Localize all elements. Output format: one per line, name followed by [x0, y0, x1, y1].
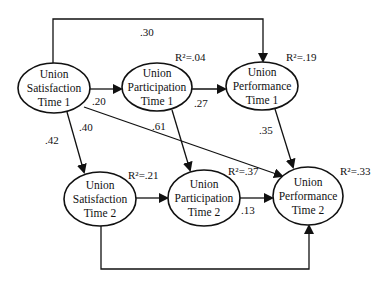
- node-label-line: Union: [190, 178, 219, 190]
- node-label-line: Union: [40, 68, 69, 80]
- node-label-line: Time 2: [188, 206, 221, 218]
- node-label-line: Performance: [233, 80, 292, 92]
- node-label-line: Participation: [175, 192, 234, 205]
- node-label-line: Union: [294, 176, 323, 188]
- r-squared-part1: R²=.04: [175, 51, 206, 63]
- node-label-line: Time 1: [38, 96, 71, 108]
- path-coefficient-sat1-part1: .20: [92, 95, 106, 107]
- path-arrow-perf1-perf2: [275, 109, 293, 167]
- r-squared-sat2: R²=.21: [128, 169, 159, 181]
- node-label-line: Time 2: [84, 207, 117, 219]
- node-sat2: UnionSatisfactionTime 2: [64, 172, 136, 226]
- nodes-layer: UnionSatisfactionTime 1UnionParticipatio…: [18, 62, 343, 226]
- node-perf2: UnionPerformanceTime 2: [273, 167, 343, 225]
- path-diagram: UnionSatisfactionTime 1UnionParticipatio…: [0, 0, 387, 285]
- node-label-line: Time 1: [246, 94, 279, 106]
- node-label-line: Participation: [128, 81, 187, 94]
- path-arrow-sat2-perf2: [101, 226, 309, 269]
- node-label-line: Time 1: [141, 95, 174, 107]
- path-coefficient-sat1-sat2: .40: [79, 121, 93, 133]
- path-coefficient-part1-perf1: .27: [194, 97, 208, 109]
- node-part1: UnionParticipationTime 1: [122, 63, 192, 111]
- node-label-line: Union: [143, 67, 172, 79]
- path-coefficient-perf1-perf2: .35: [259, 124, 273, 136]
- path-arrow-sat1-perf1: [53, 19, 263, 63]
- node-label-line: Time 2: [292, 204, 325, 216]
- path-arrow-part1-part2: [172, 110, 190, 170]
- node-perf1: UnionPerformanceTime 1: [226, 62, 298, 110]
- node-label-line: Satisfaction: [73, 193, 128, 205]
- node-label-line: Performance: [279, 190, 338, 202]
- node-label-line: Satisfaction: [27, 82, 82, 94]
- r-squared-perf1: R²=.19: [286, 51, 317, 63]
- path-coefficient-sat1-sat2-b: .42: [45, 134, 59, 146]
- path-coefficient-sat1-perf1: .30: [140, 26, 154, 38]
- node-label-line: Union: [86, 179, 115, 191]
- node-part2: UnionParticipationTime 2: [168, 170, 240, 226]
- r-squared-perf2: R²=.33: [340, 165, 371, 177]
- node-label-line: Union: [248, 66, 277, 78]
- node-sat1: UnionSatisfactionTime 1: [18, 63, 90, 113]
- path-coefficient-part2-perf2: .13: [241, 204, 255, 216]
- path-coefficient-part1-part2: .61: [152, 120, 166, 132]
- r-squared-part2: R²=.37: [228, 165, 259, 177]
